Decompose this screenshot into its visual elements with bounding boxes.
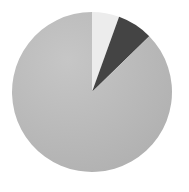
pie-chart xyxy=(0,0,189,192)
pie-chart-canvas xyxy=(0,0,189,192)
pie-slices xyxy=(12,12,172,172)
